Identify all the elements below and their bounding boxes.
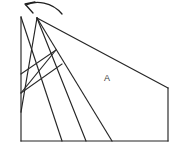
- folded-paper-diagram: A: [0, 0, 185, 153]
- figure-container: A: [0, 0, 185, 153]
- region-label-a: A: [104, 73, 110, 83]
- top-right-slanted-edge: [37, 18, 168, 88]
- fold-direction-arrow: [26, 2, 62, 14]
- arrow-head-icon: [25, 2, 35, 13]
- fold-line-2: [37, 18, 86, 141]
- fold-line-3: [37, 18, 112, 141]
